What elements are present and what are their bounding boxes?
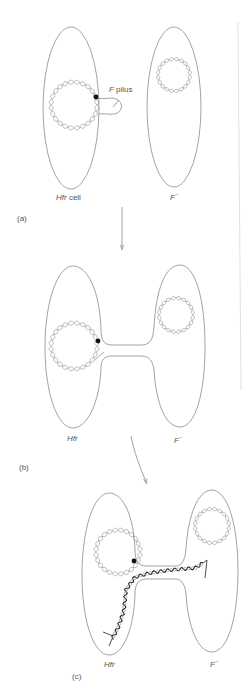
mating-pair-outline [45,265,205,428]
panel-c-tag: (c) [72,672,81,681]
f-minus-cell-outline [147,27,201,187]
f-minus-chromosome-ring [157,58,192,93]
hfr-cell-outline [43,27,99,189]
hfr-label: Hfr [67,434,78,443]
panel-a [43,27,201,189]
curved-arrow [131,436,146,482]
dna-strand-end [95,352,104,360]
origin-dot [96,339,101,344]
f-minus-label: F− [174,434,182,445]
f-minus-chromosome-ring [158,297,195,334]
panel-b-tag: (b) [19,463,29,472]
page-margin-line [238,22,241,390]
f-minus-label: F− [210,658,218,669]
f-minus-label: F− [170,191,178,202]
origin-dot [94,95,99,100]
conjugation-diagram [0,0,249,696]
panel-b [45,265,205,428]
f-minus-chromosome-ring [194,508,231,545]
hfr-cell-label: Hfr cell [56,193,81,202]
hfr-chromosome-ring [49,80,99,130]
panel-a-tag: (a) [17,214,27,223]
f-pilus [98,98,121,114]
pilus-leader-line [113,100,119,107]
f-pilus-label: F pilus [109,85,133,94]
panel-c [82,490,238,655]
hfr-label: Hfr [104,660,115,669]
hfr-chromosome-ring [49,321,99,371]
origin-dot [132,559,137,564]
